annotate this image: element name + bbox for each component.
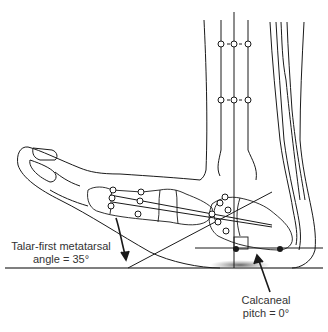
calcaneal-label-line1: Calcaneal <box>236 294 296 307</box>
talar-first-metatarsal-angle-label: Talar-first metatarsal angle = 35° <box>2 240 120 266</box>
leg-outline <box>200 20 315 268</box>
calcaneal-pitch-arrow <box>254 255 270 292</box>
talar-label-line2: angle = 35° <box>2 253 120 266</box>
talar-label-line1: Talar-first metatarsal <box>2 240 120 253</box>
calcaneal-pitch-label: Calcaneal pitch = 0° <box>236 294 296 320</box>
foot-diagram <box>0 0 328 332</box>
calcaneal-label-line2: pitch = 0° <box>236 307 296 320</box>
